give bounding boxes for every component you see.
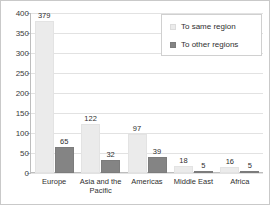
bar-value-label: 5 [248, 161, 252, 170]
bar-other-regions [55, 147, 74, 173]
category-label: Americas [131, 177, 162, 186]
category-label-line: Africa [230, 177, 249, 186]
legend-item-to-same-region: To same region [170, 22, 236, 31]
bar-same-region [81, 124, 100, 173]
category-label: Asia and thePacific [80, 177, 122, 195]
category-label-line: Middle East [174, 177, 213, 186]
chart-legend: To same region To other regions [161, 14, 262, 56]
category-label-line: Asia and the [80, 177, 122, 186]
bar-value-label: 16 [226, 157, 234, 166]
bar-other-regions [194, 171, 213, 173]
category-label-line: Europe [42, 177, 66, 186]
category-label: Africa [230, 177, 249, 186]
gridline [31, 173, 263, 174]
y-axis-tick-label: 50 [3, 149, 29, 158]
category-label: Europe [42, 177, 66, 186]
gridline [31, 73, 263, 74]
bar-value-label: 32 [106, 150, 114, 159]
y-axis-tick-label: 250 [3, 69, 29, 78]
bar-value-label: 97 [133, 124, 141, 133]
y-axis-tick-label: 400 [3, 9, 29, 18]
legend-label-1: To other regions [181, 40, 238, 49]
bar-same-region [128, 134, 147, 173]
bar-value-label: 65 [60, 137, 68, 146]
y-axis-tick-label: 350 [3, 29, 29, 38]
bar-same-region [220, 167, 239, 173]
bar-value-label: 18 [179, 156, 187, 165]
bar-other-regions [240, 171, 259, 173]
gridline [31, 113, 263, 114]
legend-label-0: To same region [181, 22, 236, 31]
category-label: Middle East [174, 177, 213, 186]
bar-value-label: 122 [84, 114, 97, 123]
category-label-line: Pacific [80, 186, 122, 195]
bar-value-label: 39 [153, 147, 161, 156]
y-axis-tick-label: 100 [3, 129, 29, 138]
bar-other-regions [148, 157, 167, 173]
category-label-line: Americas [131, 177, 162, 186]
gridline [31, 133, 263, 134]
bar-same-region [35, 21, 54, 173]
bar-value-label: 5 [201, 161, 205, 170]
bar-same-region [174, 166, 193, 173]
legend-swatch-light-icon [170, 24, 176, 30]
bar-chart: 37965122329739185165 0501001502002503003… [0, 0, 270, 205]
legend-swatch-dark-icon [170, 42, 176, 48]
gridline [31, 93, 263, 94]
y-axis-tick-label: 0 [3, 169, 29, 178]
bar-value-label: 379 [38, 11, 51, 20]
bar-other-regions [101, 160, 120, 173]
y-axis-tick-label: 150 [3, 109, 29, 118]
y-axis-tick-label: 200 [3, 89, 29, 98]
y-axis-tick-label: 300 [3, 49, 29, 58]
legend-item-to-other-regions: To other regions [170, 40, 238, 49]
